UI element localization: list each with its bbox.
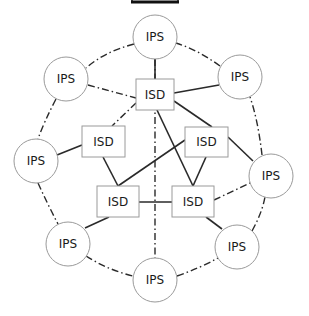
ips-node-left: IPS (14, 139, 58, 183)
ips-node-right: IPS (249, 154, 293, 198)
isd-node-left: ISD (82, 126, 125, 157)
ips-node-bottom: IPS (133, 258, 177, 302)
ips-node-upper-right: IPS (218, 55, 262, 99)
isd-node-top: ISD (136, 79, 174, 110)
ips-node-lower-left: IPS (46, 222, 90, 266)
svg-text:IPS: IPS (27, 154, 45, 168)
svg-text:ISD: ISD (196, 135, 216, 149)
cropped-title-bar (131, 0, 179, 3)
ips-node-upper-left: IPS (44, 57, 88, 101)
svg-text:IPS: IPS (57, 72, 75, 86)
ips-node-lower-right: IPS (215, 225, 259, 269)
network-diagram: IPS IPS IPS IPS IPS IPS IPS IPS (0, 0, 309, 316)
svg-text:ISD: ISD (145, 88, 165, 102)
svg-text:ISD: ISD (108, 195, 128, 209)
svg-text:ISD: ISD (93, 135, 113, 149)
ips-node-top: IPS (133, 15, 177, 59)
svg-text:IPS: IPS (146, 273, 164, 287)
svg-text:ISD: ISD (183, 195, 203, 209)
svg-text:IPS: IPS (228, 240, 246, 254)
svg-text:IPS: IPS (146, 30, 164, 44)
svg-text:IPS: IPS (59, 237, 77, 251)
svg-text:IPS: IPS (231, 70, 249, 84)
svg-text:IPS: IPS (262, 169, 280, 183)
isd-node-right: ISD (185, 127, 228, 157)
isd-node-bottom-left: ISD (97, 186, 139, 217)
isd-node-bottom-right: ISD (172, 186, 214, 217)
